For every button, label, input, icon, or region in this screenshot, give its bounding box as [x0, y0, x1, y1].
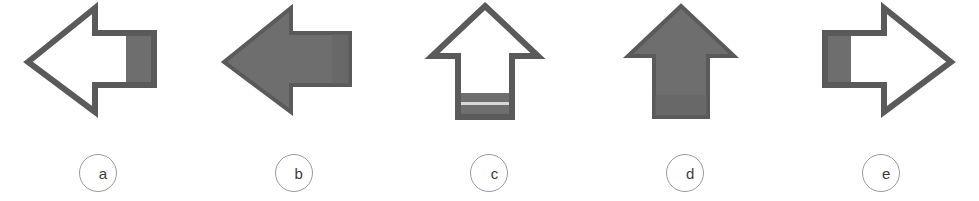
arrow-e-tail-shade [825, 33, 851, 85]
label-badge-d: d [666, 154, 704, 192]
left-arrow-outline-icon [23, 0, 173, 140]
label-text-a: a [99, 166, 107, 181]
left-arrow-filled-icon [219, 0, 369, 140]
arrow-c-shade-highlight [461, 102, 509, 105]
label-cell-c: c [392, 145, 588, 201]
arrow-item-d [587, 0, 783, 145]
label-cell-d: d [587, 145, 783, 201]
label-text-c: c [491, 166, 499, 181]
label-cell-a: a [0, 145, 196, 201]
arrow-b-tail-shade [332, 34, 349, 84]
arrow-a-tail-shade [126, 33, 154, 85]
up-arrow-outline-icon [414, 0, 564, 140]
arrow-figure-panel: a b c d e [0, 0, 979, 201]
right-arrow-outline-icon [806, 0, 956, 140]
arrow-item-c [392, 0, 588, 145]
label-cell-b: b [196, 145, 392, 201]
label-badge-c: c [470, 154, 508, 192]
label-text-d: d [686, 166, 694, 181]
label-badge-b: b [275, 154, 313, 192]
label-text-e: e [882, 166, 890, 181]
arrow-item-e [783, 0, 979, 145]
up-arrow-filled-icon [610, 0, 760, 140]
label-badge-a: a [79, 154, 117, 192]
label-row: a b c d e [0, 145, 979, 201]
label-badge-e: e [862, 154, 900, 192]
arrow-b-body [224, 8, 350, 112]
arrow-item-b [196, 0, 392, 145]
label-text-b: b [295, 166, 303, 181]
arrow-d-tail-shade [655, 95, 707, 116]
arrow-item-a [0, 0, 196, 145]
label-cell-e: e [783, 145, 979, 201]
arrow-row [0, 0, 979, 145]
